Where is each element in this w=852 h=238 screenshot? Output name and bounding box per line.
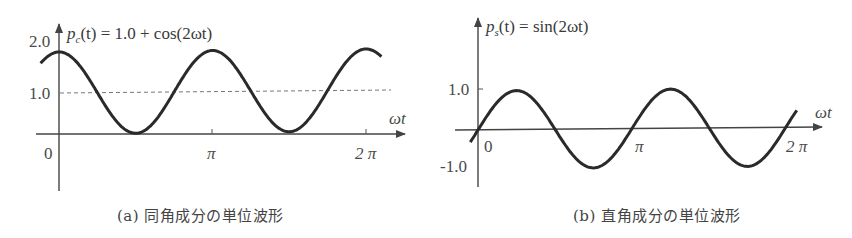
chart-a-formula-rest: (t) = 1.0 + cos(2ωt) [80, 24, 212, 43]
chart-b-formula: ps(t) = sin(2ωt) [485, 17, 589, 38]
chart-b-formula-rest: (t) = sin(2ωt) [499, 17, 589, 36]
chart-a-reference-line [60, 90, 391, 93]
chart-a-formula-p: p [66, 24, 76, 43]
chart-b-xtick-pi: π [635, 137, 644, 156]
figure-canvas: 2.0 1.0 0 π 2 π ωt pc(t) = 1.0 + cos(2ωt… [0, 0, 852, 238]
chart-a-curve [41, 49, 382, 133]
chart-a: 2.0 1.0 0 π 2 π ωt pc(t) = 1.0 + cos(2ωt… [29, 24, 407, 191]
chart-b-ytick-1: 1.0 [448, 80, 469, 99]
chart-a-ytick-2: 2.0 [29, 32, 50, 51]
chart-b-formula-p: p [485, 17, 495, 36]
chart-b-caption: (b) 直角成分の単位波形 [573, 204, 741, 225]
chart-a-ytick-0: 0 [44, 144, 53, 163]
chart-b-xtick-0: 0 [484, 137, 493, 156]
chart-a-xtick-2pi: 2 π [355, 144, 377, 163]
chart-a-x-axis-label: ωt [389, 109, 407, 128]
chart-b-xtick-2pi: 2 π [786, 137, 808, 156]
chart-a-caption: (a) 同角成分の単位波形 [117, 204, 284, 225]
chart-b-curve [470, 89, 797, 168]
chart-b-ytick-neg1: -1.0 [440, 157, 467, 176]
chart-b: 1.0 -1.0 0 π 2 π ωt ps(t) = sin(2ωt) [440, 17, 833, 187]
chart-a-formula: pc(t) = 1.0 + cos(2ωt) [66, 24, 212, 45]
chart-b-x-axis-label: ωt [815, 103, 833, 122]
chart-b-x-axis [455, 127, 822, 130]
chart-a-xtick-pi: π [207, 144, 216, 163]
chart-a-ytick-1: 1.0 [29, 84, 50, 103]
